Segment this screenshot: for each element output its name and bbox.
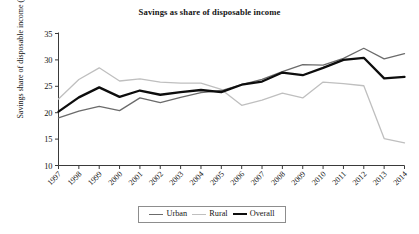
legend-label-urban: Urban (166, 210, 187, 218)
x-tick-label: 2010 (310, 170, 328, 188)
x-tick-label: 2004 (188, 170, 206, 188)
x-tick-label: 2008 (269, 170, 287, 188)
legend-label-rural: Rural (209, 210, 227, 218)
x-tick-label: 1999 (86, 170, 104, 188)
x-tick-label: 2007 (249, 170, 267, 188)
x-tick-label: 2014 (391, 170, 409, 188)
y-tick-label: 10 (44, 162, 52, 171)
y-axis: 101520253035 (44, 30, 58, 171)
chart-legend: UrbanRuralOverall (138, 206, 286, 223)
y-tick-label: 20 (44, 109, 52, 118)
x-tick-label: 2003 (168, 170, 186, 188)
x-tick-label: 1998 (66, 170, 84, 188)
series-line-rural (59, 68, 405, 143)
x-tick-label: 2013 (371, 170, 389, 188)
y-tick-label: 25 (44, 82, 52, 91)
x-axis: 1997199819992000200120022003200420052006… (45, 166, 409, 188)
y-tick-label: 15 (44, 135, 52, 144)
plot-area: 1015202530351997199819992000200120022003… (0, 0, 419, 234)
x-tick-label: 2001 (127, 170, 145, 188)
x-tick-label: 1997 (45, 170, 63, 188)
x-tick-label: 2012 (351, 170, 369, 188)
chart-figure: Savings as share of disposable income Sa… (0, 0, 419, 234)
legend-item-rural[interactable]: Rural (192, 210, 227, 218)
x-tick-label: 2006 (229, 170, 247, 188)
legend-label-overall: Overall (250, 210, 275, 218)
x-tick-label: 2002 (147, 170, 165, 188)
x-tick-label: 2000 (106, 170, 124, 188)
legend-swatch-urban (149, 214, 163, 215)
y-tick-label: 30 (44, 56, 52, 65)
x-tick-label: 2005 (208, 170, 226, 188)
legend-item-overall[interactable]: Overall (233, 210, 275, 218)
legend-swatch-overall (233, 213, 247, 215)
y-tick-label: 35 (44, 30, 52, 39)
legend-swatch-rural (192, 214, 206, 215)
legend-item-urban[interactable]: Urban (149, 210, 187, 218)
x-tick-label: 2011 (331, 170, 348, 187)
x-tick-label: 2009 (290, 170, 308, 188)
